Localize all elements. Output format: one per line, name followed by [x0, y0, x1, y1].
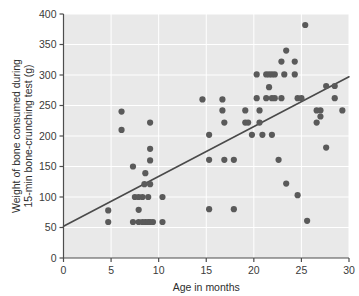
data-point	[231, 206, 237, 212]
data-point	[206, 157, 212, 163]
data-point	[302, 22, 308, 28]
data-point	[221, 119, 227, 125]
data-point	[249, 132, 255, 138]
x-axis-tick-label: 20	[248, 264, 260, 276]
data-point	[206, 132, 212, 138]
data-point	[231, 157, 237, 163]
scatter-plot-figure: 050100150200250300350400051015202530Age …	[0, 0, 359, 296]
data-point	[242, 107, 248, 113]
data-point	[266, 84, 272, 90]
data-point	[105, 207, 111, 213]
data-point	[272, 71, 278, 77]
data-point	[278, 95, 284, 101]
data-point	[256, 107, 262, 113]
x-axis-tick-label: 15	[200, 264, 212, 276]
x-axis-tick-label: 0	[61, 264, 67, 276]
data-point	[323, 144, 329, 150]
data-point	[105, 219, 111, 225]
data-point	[206, 206, 212, 212]
y-axis-tick-label: 0	[51, 252, 57, 264]
data-point	[150, 219, 156, 225]
data-point	[147, 146, 153, 152]
data-point	[269, 132, 275, 138]
data-point	[118, 109, 124, 115]
data-point	[219, 107, 225, 113]
y-axis-tick-label: 400	[39, 8, 57, 20]
y-axis-tick-label: 50	[45, 221, 57, 233]
data-point	[219, 96, 225, 102]
x-axis-tick-label: 25	[296, 264, 308, 276]
y-axis-tick-label: 350	[39, 38, 57, 50]
data-point	[147, 119, 153, 125]
data-point	[304, 218, 310, 224]
y-axis-tick-label: 100	[39, 191, 57, 203]
data-point	[256, 119, 262, 125]
data-point	[283, 48, 289, 54]
data-point	[295, 192, 301, 198]
data-point	[259, 132, 265, 138]
data-point	[254, 95, 260, 101]
y-axis-tick-label: 200	[39, 130, 57, 142]
data-point	[275, 157, 281, 163]
data-point	[199, 96, 205, 102]
data-point	[332, 95, 338, 101]
data-point	[145, 194, 151, 200]
data-point	[317, 107, 323, 113]
data-point	[147, 181, 153, 187]
data-point	[159, 219, 165, 225]
x-axis-tick-label: 5	[108, 264, 114, 276]
data-point	[278, 58, 284, 64]
data-point	[314, 119, 320, 125]
x-axis-title: Age in months	[173, 281, 240, 293]
data-point	[118, 127, 124, 133]
y-axis-title-line-1: Weight of bone consumed during	[10, 59, 22, 213]
y-axis-tick-label: 300	[39, 69, 57, 81]
data-point	[263, 95, 269, 101]
data-point	[298, 95, 304, 101]
data-point	[254, 71, 260, 77]
data-point	[332, 83, 338, 89]
chart-canvas: 050100150200250300350400051015202530Age …	[0, 0, 359, 296]
data-point	[245, 119, 251, 125]
data-point	[317, 113, 323, 119]
data-point	[130, 219, 136, 225]
y-axis-tick-label: 250	[39, 99, 57, 111]
x-axis-tick-label: 10	[153, 264, 165, 276]
data-point	[281, 71, 287, 77]
data-point	[142, 170, 148, 176]
data-point	[159, 194, 165, 200]
data-point	[221, 157, 227, 163]
data-point	[283, 180, 289, 186]
y-axis-tick-label: 150	[39, 160, 57, 172]
data-point	[292, 71, 298, 77]
y-axis-title-line-2: 15-min bone-crunching test (g)	[22, 65, 34, 208]
data-point	[292, 58, 298, 64]
data-point	[147, 157, 153, 163]
data-point	[339, 107, 345, 113]
data-point	[136, 207, 142, 213]
x-axis-tick-label: 30	[343, 264, 355, 276]
data-point	[141, 181, 147, 187]
data-point	[139, 194, 145, 200]
data-point	[130, 163, 136, 169]
data-point	[323, 83, 329, 89]
data-point	[272, 95, 278, 101]
